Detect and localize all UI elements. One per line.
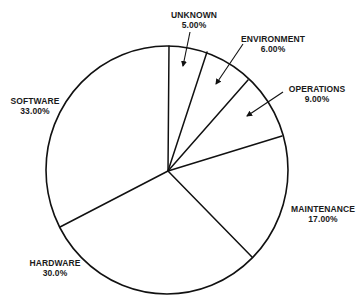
label-unknown-name: UNKNOWN bbox=[163, 10, 225, 20]
label-hardware-value: 30.0% bbox=[20, 268, 90, 278]
label-maintenance-value: 17.00% bbox=[285, 214, 361, 224]
label-operations: OPERATIONS 9.00% bbox=[280, 84, 354, 104]
label-software-value: 33.00% bbox=[2, 106, 68, 116]
label-software-name: SOFTWARE bbox=[2, 96, 68, 106]
label-hardware: HARDWARE 30.0% bbox=[20, 258, 90, 278]
label-unknown-value: 5.00% bbox=[163, 20, 225, 30]
label-hardware-name: HARDWARE bbox=[20, 258, 90, 268]
label-maintenance: MAINTENANCE 17.00% bbox=[285, 204, 361, 224]
label-operations-value: 9.00% bbox=[280, 94, 354, 104]
label-maintenance-name: MAINTENANCE bbox=[285, 204, 361, 214]
label-environment: ENVIRONMENT 6.00% bbox=[233, 34, 313, 54]
divider-software-unknown bbox=[168, 46, 169, 171]
label-software: SOFTWARE 33.00% bbox=[2, 96, 68, 116]
label-operations-name: OPERATIONS bbox=[280, 84, 354, 94]
label-environment-value: 6.00% bbox=[233, 44, 313, 54]
label-unknown: UNKNOWN 5.00% bbox=[163, 10, 225, 30]
label-environment-name: ENVIRONMENT bbox=[233, 34, 313, 44]
